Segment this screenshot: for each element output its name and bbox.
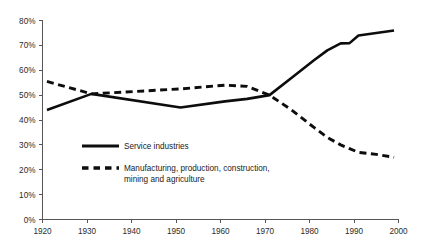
y-tick-label: 0% — [24, 216, 36, 225]
line-chart: 0%10%20%30%40%50%60%70%80% 1920193019401… — [0, 0, 422, 250]
y-tick-label: 10% — [19, 191, 35, 200]
chart-legend: Service industries Manufacturing, produc… — [82, 142, 270, 184]
y-axis-ticks — [39, 21, 43, 220]
y-tick-label: 80% — [19, 17, 35, 26]
legend-label-service-industries: Service industries — [124, 142, 189, 151]
x-tick-label: 1930 — [78, 227, 97, 236]
y-tick-label: 40% — [19, 116, 35, 125]
x-tick-label: 2000 — [389, 227, 408, 236]
y-tick-label: 20% — [19, 166, 35, 175]
data-series-group — [47, 30, 394, 157]
plot-axes — [43, 21, 399, 220]
legend-label-manufacturing-line1: Manufacturing, production, construction, — [124, 164, 270, 173]
x-tick-label: 1950 — [167, 227, 186, 236]
x-axis-tick-labels: 192019301940195019601970198019902000 — [33, 227, 408, 236]
series-line-service-industries — [47, 30, 394, 110]
y-tick-label: 30% — [19, 141, 35, 150]
chart-canvas: 0%10%20%30%40%50%60%70%80% 1920193019401… — [0, 0, 422, 250]
x-tick-label: 1960 — [211, 227, 230, 236]
x-axis-ticks — [43, 220, 399, 224]
y-tick-label: 50% — [19, 91, 35, 100]
x-tick-label: 1920 — [33, 227, 52, 236]
legend-label-manufacturing-line2: mining and agriculture — [124, 175, 205, 184]
y-tick-label: 70% — [19, 41, 35, 50]
y-tick-label: 60% — [19, 66, 35, 75]
x-tick-label: 1980 — [300, 227, 319, 236]
y-axis-tick-labels: 0%10%20%30%40%50%60%70%80% — [19, 17, 35, 225]
x-tick-label: 1940 — [122, 227, 141, 236]
x-tick-label: 1970 — [256, 227, 275, 236]
x-tick-label: 1990 — [345, 227, 364, 236]
